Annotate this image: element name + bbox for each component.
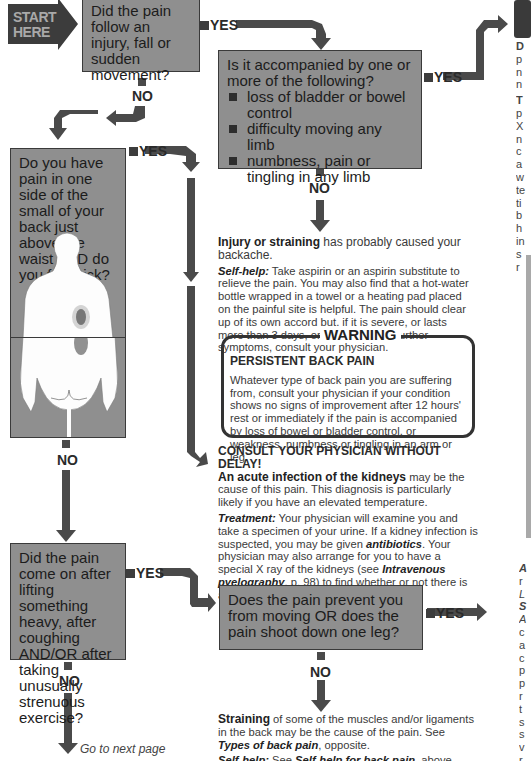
yes-label: YES (129, 143, 167, 159)
symptom-item: difficulty moving any limb (227, 121, 413, 153)
yes-label: YES (424, 69, 462, 85)
question-text: Is it accompanied by one or more of the … (227, 57, 413, 89)
yes-label: YES (200, 17, 238, 33)
right-edge-text-top: D p n n T p X n c a w te ti b h in s r (516, 40, 531, 273)
back-illustration-icon (11, 149, 126, 338)
types-of-back-pain-link[interactable]: Types of back pain (218, 739, 318, 751)
question-box-leg-pain: Does the pain prevent you from moving OR… (219, 585, 423, 650)
no-label: NO (309, 180, 330, 196)
yes-label: YES (126, 565, 164, 581)
straining-outcome: Straining of some of the muscles and/or … (218, 713, 478, 761)
question-box-injury: Did the pain follow an injury, fall or s… (82, 0, 200, 72)
self-help-for-back-pain-link[interactable]: Self-help for back pain (295, 754, 415, 761)
question-text: Does the pain prevent you from moving OR… (220, 586, 422, 640)
question-box-kidney: Do you have pain in one side of the smal… (10, 148, 126, 338)
yes-label: YES (426, 605, 464, 621)
symptom-list: loss of bladder or bowel control difficu… (227, 89, 413, 185)
back-illustration-lower (10, 338, 126, 438)
start-here-label: START HERE (13, 10, 56, 40)
question-text: Did the pain follow an injury, fall or s… (83, 0, 199, 83)
question-box-symptoms: Is it accompanied by one or more of the … (218, 50, 422, 169)
no-label: NO (310, 664, 331, 680)
right-edge-text-bottom: A r L S A c a c p p r t s s v r (519, 562, 531, 761)
next-page-link[interactable]: Go to next page (80, 742, 165, 756)
symptom-item: loss of bladder or bowel control (227, 89, 413, 121)
no-label: NO (132, 88, 153, 104)
question-box-lifting: Did the pain come on after lifting somet… (10, 543, 126, 660)
kidney-outcome: CONSULT YOUR PHYSICIAN WITHOUT DELAY! An… (218, 445, 478, 605)
antibiotics-link[interactable]: antibiotics (366, 538, 422, 550)
no-label: NO (59, 673, 80, 689)
no-label: NO (57, 452, 78, 468)
warning-title: WARNING (320, 326, 401, 343)
question-text: Did the pain come on after lifting somet… (11, 544, 125, 726)
